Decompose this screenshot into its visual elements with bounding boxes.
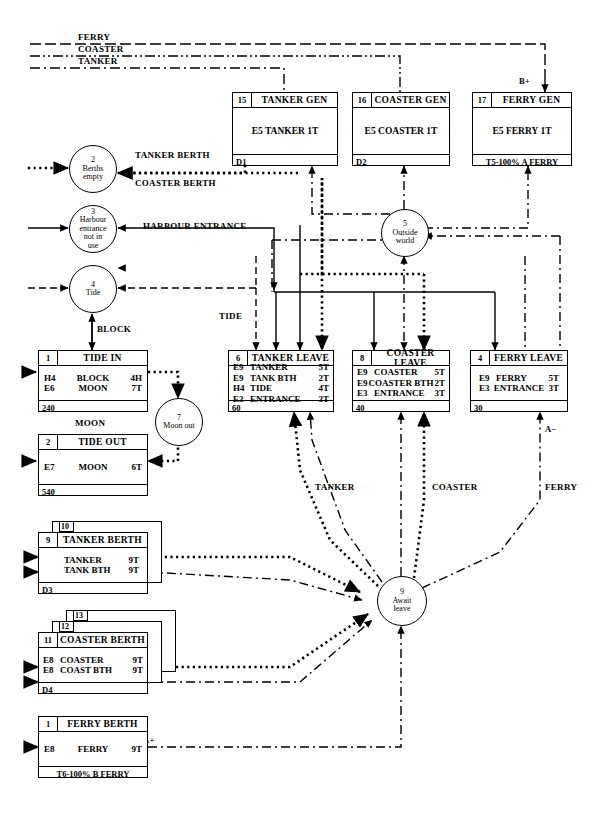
box-ferry-berth[interactable]: 1 FERRY BERTH E8 FERRY 9T T6-100% B FERR… xyxy=(38,716,148,778)
box-tide-in[interactable]: 1 TIDE IN H4 BLOCK 4H E6 MOON 7T 240 xyxy=(38,350,148,412)
box-title: FERRY BERTH xyxy=(58,719,147,729)
box-ferry-leave[interactable]: 4 FERRY LEAVE E9 FERRY 5T E3 ENTRANCE 3T… xyxy=(470,350,568,412)
box-footer: D3 xyxy=(39,582,147,596)
flow-label-ferry: FERRY xyxy=(78,32,110,42)
box-header: 17 FERRY GEN xyxy=(473,93,571,108)
box-row: E7 MOON 6T xyxy=(44,462,142,473)
box-title: FERRY GEN xyxy=(492,95,571,105)
box-number: 1 xyxy=(39,717,58,731)
box-title: COASTER LEAVE xyxy=(372,348,449,368)
box-row: H4 BLOCK 4H xyxy=(44,373,142,384)
row-name: TANK BTH xyxy=(64,565,122,576)
row-event: E3 xyxy=(357,388,374,399)
box-body: E5 COASTER 1T xyxy=(353,108,449,154)
box-title: TANKER GEN xyxy=(252,95,337,105)
box-number: 2 xyxy=(39,435,58,449)
box-body: E9 COASTER 5T E9 COASTER BTH 2T E3 ENTRA… xyxy=(353,366,449,400)
box-row: E9 FERRY 5T xyxy=(479,373,559,384)
box-row: E9 TANKER 5T xyxy=(233,362,329,373)
box-footer: D1 xyxy=(233,154,337,168)
box-body-text: E5 TANKER 1T xyxy=(233,126,337,136)
box-row: E8 FERRY 9T xyxy=(44,744,142,755)
box-coaster-gen[interactable]: 16 COASTER GEN E5 COASTER 1T D2 xyxy=(352,92,450,166)
box-coaster-leave[interactable]: 8 COASTER LEAVE E9 COASTER 5T E9 COASTER… xyxy=(352,350,450,412)
box-row: TANKER 9T xyxy=(47,555,139,566)
box-footer: D4 xyxy=(39,682,147,696)
row-name: COAST BTH xyxy=(60,665,126,676)
box-row: E9 TANK BTH 2T xyxy=(233,373,329,384)
box-number: 17 xyxy=(473,93,492,107)
box-footer: D2 xyxy=(353,154,449,168)
row-event: E3 xyxy=(479,383,494,394)
row-qty: 9T xyxy=(125,744,142,755)
box-title: COASTER GEN xyxy=(372,95,449,105)
box-header: 9 TANKER BERTH xyxy=(39,533,147,548)
box-header: 8 COASTER LEAVE xyxy=(353,351,449,366)
box-row: H4 TIDE 4T xyxy=(233,383,329,394)
row-name: BLOCK xyxy=(61,373,125,384)
circle-label-line2: world xyxy=(396,237,415,246)
box-title: TANKER BERTH xyxy=(58,535,147,545)
box-ferry-gen[interactable]: 17 FERRY GEN E5 FERRY 1T T5-100% A FERRY xyxy=(472,92,572,166)
box-body: H4 BLOCK 4H E6 MOON 7T xyxy=(39,366,147,400)
row-name: COASTER xyxy=(374,367,428,378)
row-event: E9 xyxy=(233,373,250,384)
box-row: E8 COASTER 9T xyxy=(43,655,143,666)
row-qty: 6T xyxy=(125,462,142,473)
box-body: E8 COASTER 9T E8 COAST BTH 9T xyxy=(39,648,147,682)
box-number: 16 xyxy=(353,93,372,107)
box-header: 15 TANKER GEN xyxy=(233,93,337,108)
edge-label-tanker: TANKER xyxy=(315,482,355,492)
box-header: 4 FERRY LEAVE xyxy=(471,351,567,366)
edge-label-a-minus: A− xyxy=(545,424,557,434)
row-event: E7 xyxy=(44,462,61,473)
row-name: ENTRANCE xyxy=(250,394,312,405)
box-row: E9 COASTER BTH 2T xyxy=(357,378,445,389)
row-qty: 5T xyxy=(428,367,445,378)
circle-berths-empty[interactable]: 2 Berths empty xyxy=(69,145,117,193)
row-name: FERRY xyxy=(61,744,125,755)
row-event: E9 xyxy=(357,378,369,389)
row-name: TANKER xyxy=(64,555,122,566)
box-body: TANKER 9T TANK BTH 9T xyxy=(39,548,147,582)
row-name: COASTER BTH xyxy=(369,378,434,389)
box-row: TANK BTH 9T xyxy=(47,565,139,576)
box-number: 8 xyxy=(353,351,372,365)
circle-harbour-entrance-not-in-use[interactable]: 3 Harbour entrance not in use xyxy=(69,205,117,253)
row-event: E9 xyxy=(357,367,374,378)
row-qty: 9T xyxy=(122,555,139,566)
box-footer: T5-100% A FERRY xyxy=(473,154,571,168)
box-number: 11 xyxy=(39,633,58,647)
box-tide-out[interactable]: 2 TIDE OUT E7 MOON 6T 540 xyxy=(38,434,148,496)
box-number: 4 xyxy=(471,351,490,365)
row-qty: 7T xyxy=(125,383,142,394)
circle-outside-world[interactable]: 5 Outside world xyxy=(381,209,429,257)
box-footer: 40 xyxy=(353,400,449,414)
circle-await-leave[interactable]: 9 Await leave xyxy=(377,576,427,626)
box-tanker-berth[interactable]: 9 TANKER BERTH TANKER 9T TANK BTH 9T D3 xyxy=(38,532,148,594)
row-event: H4 xyxy=(233,383,250,394)
box-tanker-leave[interactable]: 6 TANKER LEAVE E9 TANKER 5T E9 TANK BTH … xyxy=(228,350,334,412)
row-qty: 2T xyxy=(312,373,329,384)
box-footer: 30 xyxy=(471,400,567,414)
box-coaster-berth[interactable]: 11 COASTER BERTH E8 COASTER 9T E8 COAST … xyxy=(38,632,148,694)
circle-tide[interactable]: 4 Tide xyxy=(69,265,117,313)
edge-label-tanker-berth: TANKER BERTH xyxy=(135,150,210,160)
row-qty: 3T xyxy=(428,388,445,399)
box-row: E3 ENTRANCE 3T xyxy=(479,383,559,394)
box-row: E3 ENTRANCE 3T xyxy=(233,394,329,405)
row-name: TANK BTH xyxy=(250,373,312,384)
row-qty: 9T xyxy=(126,665,143,676)
box-body: E5 TANKER 1T xyxy=(233,108,337,154)
box-tanker-gen[interactable]: 15 TANKER GEN E5 TANKER 1T D1 xyxy=(232,92,338,166)
circle-moon-out[interactable]: 7 Moon out xyxy=(155,398,203,446)
box-title: TIDE OUT xyxy=(58,437,147,447)
row-qty: 9T xyxy=(126,655,143,666)
box-footer: T6-100% B FERRY xyxy=(39,766,147,780)
edge-label-coaster: COASTER xyxy=(432,482,478,492)
box-body: E9 TANKER 5T E9 TANK BTH 2T H4 TIDE 4T E… xyxy=(229,366,333,400)
row-event: E9 xyxy=(233,362,250,373)
box-header: 2 TIDE OUT xyxy=(39,435,147,450)
row-name: ENTRANCE xyxy=(374,388,428,399)
box-body: E9 FERRY 5T E3 ENTRANCE 3T xyxy=(471,366,567,400)
